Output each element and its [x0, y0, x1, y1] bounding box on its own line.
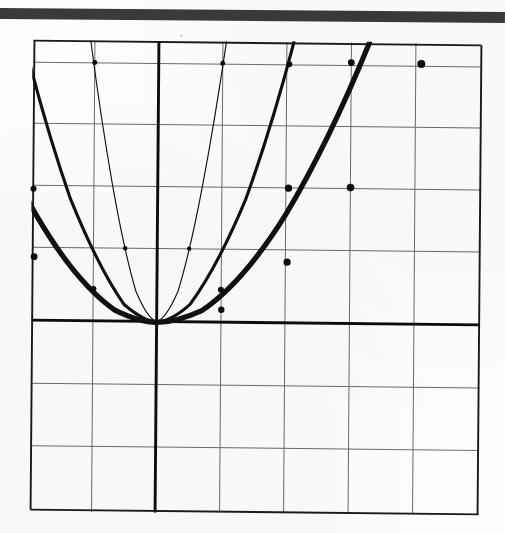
point-marker	[31, 253, 38, 260]
frame-top	[33, 41, 481, 46]
curve-y-equals-half-x-squared	[0, 40, 369, 324]
point-marker	[348, 59, 355, 66]
grid-line-vertical	[284, 42, 287, 513]
point-marker	[123, 246, 127, 250]
grid-line-horizontal	[33, 123, 481, 128]
x-axis	[32, 320, 480, 325]
grid-line-vertical	[220, 42, 223, 513]
grid-line-horizontal	[33, 62, 481, 67]
point-marker	[283, 259, 290, 266]
point-marker	[347, 184, 355, 192]
scanned-page	[0, 0, 505, 533]
grid-line-horizontal	[33, 185, 481, 190]
grid-line-vertical	[413, 43, 416, 514]
parabola-figure	[0, 0, 505, 533]
scan-speck	[180, 34, 182, 36]
y-axis	[155, 41, 159, 512]
grid-line-vertical	[348, 43, 351, 514]
point-marker	[92, 60, 97, 65]
grid-line-vertical	[92, 41, 95, 512]
frame-right	[478, 45, 482, 514]
point-marker	[90, 286, 96, 292]
grid-line-horizontal	[31, 383, 479, 388]
point-marker	[286, 61, 292, 67]
point-marker	[417, 60, 425, 68]
frame-left	[31, 41, 35, 510]
point-marker	[218, 307, 224, 313]
point-marker	[218, 287, 224, 293]
point-marker	[187, 246, 191, 250]
grid-lines	[31, 41, 482, 515]
point-marker	[31, 186, 37, 192]
point-marker	[285, 185, 292, 192]
point-marker	[220, 61, 225, 66]
grid-line-horizontal	[31, 446, 479, 451]
frame-bottom	[31, 510, 479, 515]
grid-line-horizontal	[32, 247, 480, 252]
